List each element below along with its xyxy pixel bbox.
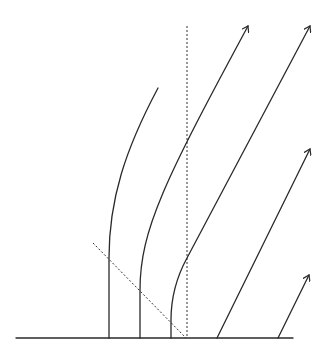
worldline-w2 (140, 26, 248, 338)
worldline-w4 (217, 149, 310, 338)
worldlines-group (109, 26, 310, 338)
worldline-w5 (278, 275, 309, 338)
worldline-diagram (0, 0, 328, 360)
worldline-w1 (109, 88, 158, 338)
